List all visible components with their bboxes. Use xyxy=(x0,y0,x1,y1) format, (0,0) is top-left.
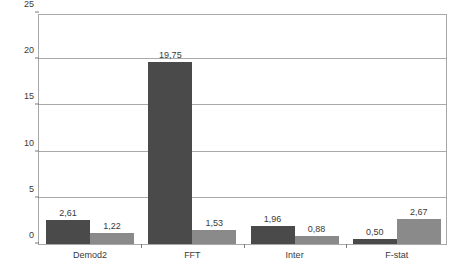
bar-group: 19,751,53 xyxy=(141,15,243,244)
bar-value-label: 2,61 xyxy=(59,209,77,218)
bar-value-label: 0,50 xyxy=(366,228,384,237)
y-tick-label: 0 xyxy=(29,231,34,240)
plot-area: 0510152025 2,611,2219,751,531,960,880,50… xyxy=(38,14,447,245)
bar-value-label: 0,88 xyxy=(308,225,326,234)
bar-chart: 0510152025 2,611,2219,751,531,960,880,50… xyxy=(0,0,471,274)
x-separator-tick xyxy=(141,244,142,248)
bar: 1,53 xyxy=(192,230,236,244)
bar: 0,88 xyxy=(295,236,339,244)
bar-group: 2,611,22 xyxy=(39,15,141,244)
bars-layer: 2,611,2219,751,531,960,880,502,67 xyxy=(39,15,446,244)
bar-value-label: 1,53 xyxy=(206,219,224,228)
x-category-label: F-stat xyxy=(385,251,408,260)
bar-value-label: 2,67 xyxy=(410,208,428,217)
x-category-label: FFT xyxy=(184,251,201,260)
bar-group: 1,960,88 xyxy=(244,15,346,244)
y-tick-label: 25 xyxy=(24,0,34,9)
bar-group: 0,502,67 xyxy=(346,15,448,244)
bar: 2,61 xyxy=(46,220,90,244)
x-category-label: Demod2 xyxy=(73,251,107,260)
x-separator-tick xyxy=(244,244,245,248)
x-category-label: Inter xyxy=(286,251,304,260)
y-tick-label: 15 xyxy=(24,92,34,101)
y-tick-mark xyxy=(35,12,39,13)
bar: 0,50 xyxy=(353,239,397,244)
bar-value-label: 1,22 xyxy=(103,222,121,231)
bar: 1,22 xyxy=(90,233,134,244)
bar-value-label: 1,96 xyxy=(264,215,282,224)
y-tick-label: 10 xyxy=(24,138,34,147)
bar: 2,67 xyxy=(397,219,441,244)
bar-value-label: 19,75 xyxy=(159,51,182,60)
bar: 1,96 xyxy=(251,226,295,244)
bar: 19,75 xyxy=(148,62,192,244)
y-tick-label: 20 xyxy=(24,46,34,55)
y-tick-label: 5 xyxy=(29,184,34,193)
x-separator-tick xyxy=(346,244,347,248)
